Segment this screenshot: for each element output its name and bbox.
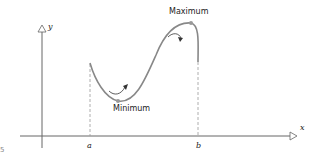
min-curved-arrow-icon [109,87,125,94]
y-axis-label: y [48,23,53,31]
tick-label-a: a [87,142,92,150]
minimum-label: Minimum [113,105,150,113]
minimum-point [116,99,120,103]
tick-label-b: b [196,142,201,150]
max-arrowhead-icon [178,37,183,42]
maximum-point [189,21,193,25]
y-axis-arrow-icon [38,25,46,32]
margin-mark: 5 [0,147,4,154]
x-axis-label: x [300,124,305,132]
x-axis-arrow-icon [290,132,297,140]
maximum-label: Maximum [169,8,208,16]
function-curve [90,23,198,101]
